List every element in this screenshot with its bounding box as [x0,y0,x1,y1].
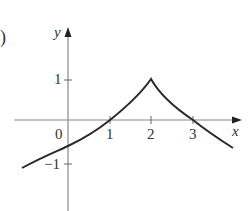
y-tick-label-1: 1 [54,72,62,87]
origin-label: 0 [55,127,63,142]
y-axis-label: y [54,25,61,40]
chart-canvas [0,0,249,211]
x-axis-label: x [232,124,239,139]
x-tick-label-2: 2 [147,127,155,142]
y-tick-label-neg1: −1 [44,157,60,172]
function-curve [22,79,233,168]
y-axis-arrow-icon [65,27,72,37]
x-tick-label-1: 1 [106,127,114,142]
x-tick-label-3: 3 [189,127,197,142]
